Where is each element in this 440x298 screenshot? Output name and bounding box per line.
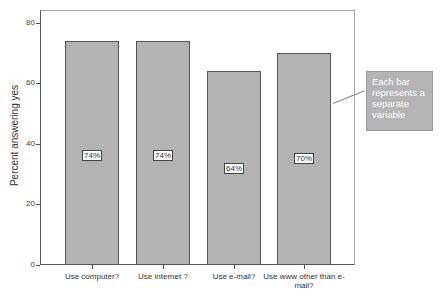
bar-value-label: 64% <box>224 163 244 174</box>
x-tick <box>163 265 164 269</box>
x-tick <box>304 265 305 269</box>
x-tick <box>92 265 93 269</box>
bar-value-label: 70% <box>294 153 314 164</box>
y-axis-label: Percent answering yes <box>9 76 20 196</box>
bar-use-computer: 74% <box>65 41 119 265</box>
bar-use-www: 70% <box>277 53 331 265</box>
bar-value-label: 74% <box>82 150 102 161</box>
bar-use-internet: 74% <box>136 41 190 265</box>
callout-annotation: Each bar represents a separate variable <box>366 71 433 131</box>
bar-use-email: 64% <box>207 71 261 265</box>
x-label-use-www: Use www other than e-mail? <box>262 272 346 290</box>
bar-value-label: 74% <box>153 150 173 161</box>
x-tick <box>234 265 235 269</box>
